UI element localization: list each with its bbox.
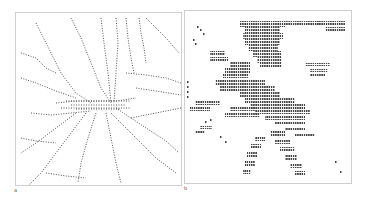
panel-a [15, 12, 182, 186]
dotted-path [36, 23, 91, 103]
char-block [220, 85, 275, 91]
dotted-path [46, 173, 86, 178]
char-dot [203, 33, 205, 35]
char-block [295, 133, 315, 137]
char-block [195, 131, 205, 134]
dotted-path [139, 18, 146, 63]
char-block [285, 21, 320, 25]
dotted-path [126, 73, 181, 83]
dotted-path [136, 88, 181, 95]
panel-b [184, 10, 352, 184]
char-block [325, 27, 345, 31]
char-block [310, 74, 325, 77]
char-block [195, 101, 220, 105]
char-block [243, 33, 283, 39]
char-block [251, 144, 261, 149]
char-block [245, 161, 255, 166]
char-block [245, 27, 280, 33]
char-block [210, 51, 225, 55]
char-dot [193, 39, 195, 41]
char-block [275, 139, 290, 144]
char-dot [210, 119, 212, 121]
dotted-path [78, 113, 96, 183]
dotted-path [101, 18, 111, 103]
dotted-path [111, 113, 176, 173]
char-block [230, 106, 255, 111]
panel-a-label: a [14, 187, 17, 193]
char-block [250, 103, 305, 109]
char-block [275, 121, 305, 125]
char-block [200, 126, 212, 129]
panel-b-label: b [184, 185, 187, 191]
dotted-path [21, 78, 76, 98]
dotted-path [21, 138, 56, 143]
char-dot [197, 26, 199, 28]
char-dot [200, 29, 202, 31]
char-dot [205, 121, 207, 123]
char-block [240, 21, 285, 27]
char-block [285, 127, 305, 131]
char-dot [187, 91, 189, 93]
char-block [215, 79, 265, 85]
char-block [245, 97, 295, 103]
char-block [255, 136, 265, 141]
char-block [243, 169, 251, 174]
char-block [240, 91, 280, 97]
dotted-path [31, 111, 91, 115]
char-block [247, 152, 257, 157]
char-block [255, 109, 310, 114]
char-block [295, 171, 305, 176]
char-dot [340, 171, 342, 173]
char-block [265, 115, 305, 120]
panel-a-plot [16, 13, 181, 185]
char-block [315, 21, 345, 25]
char-block [305, 63, 330, 66]
char-block [230, 61, 250, 67]
char-block [270, 131, 285, 136]
char-block [245, 39, 280, 45]
char-block [285, 155, 297, 160]
char-block [248, 45, 278, 51]
dotted-path [131, 108, 181, 118]
char-block [223, 73, 248, 78]
dotted-path [106, 113, 121, 183]
char-block [310, 69, 328, 72]
char-block [253, 51, 281, 57]
char-block [280, 147, 295, 152]
dotted-path [71, 18, 111, 103]
dotted-path [116, 108, 179, 153]
char-dot [195, 43, 197, 45]
dotted-path [146, 18, 179, 53]
char-dot [187, 86, 189, 88]
char-dot [187, 96, 189, 98]
char-dot [335, 161, 337, 163]
char-block [210, 57, 228, 61]
char-block [257, 57, 282, 63]
dotted-path [21, 113, 76, 153]
char-block [190, 107, 210, 111]
dotted-path [126, 18, 134, 73]
panel-b-plot [185, 11, 351, 183]
char-dot [187, 81, 189, 83]
char-block [290, 163, 302, 168]
char-block [225, 112, 260, 117]
char-block [225, 67, 250, 73]
dotted-path [21, 53, 56, 73]
char-dot [225, 141, 227, 143]
char-dot [220, 136, 222, 138]
dotted-path [114, 18, 118, 103]
char-block [260, 63, 282, 67]
